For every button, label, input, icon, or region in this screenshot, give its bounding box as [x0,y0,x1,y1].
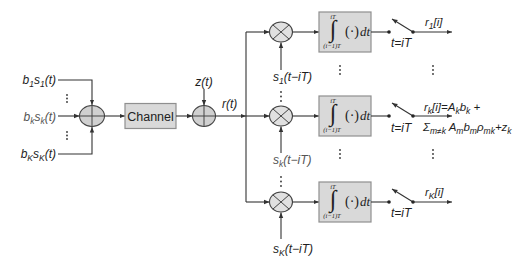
output-label-K: rK[i] [425,186,444,201]
ellipsis-dot [280,96,282,98]
vertical-ellipsis [432,149,434,159]
ellipsis-dot [432,149,434,151]
correlator-branch-K: sK(t−iT) iT ∫ (i−1)T (·) dt t=iT rK[i] [246,182,452,258]
ellipsis-dot [66,94,68,96]
signature-label-K: sK(t−iT) [273,242,313,258]
ellipsis-dot [280,176,282,178]
channel-label: Channel [127,110,174,124]
input-wire-1 [58,80,92,105]
sampling-switch-icon [371,103,415,118]
label-part: (t) [45,110,56,124]
output-label-k-line1: rk[i]=Akbk + [424,101,481,116]
signature-label-k: sk(t−iT) [273,153,312,169]
output-label-k-line2: Σm≠k Ambmρmk+zk [422,121,512,136]
integral-lower-limit: (i−1)T [323,126,341,134]
input-label-K: bKsK(t) [21,147,56,163]
integral-sign: ∫ [328,100,338,128]
label-part: [i] [434,186,445,198]
label-part: (t) [45,73,56,87]
label-part: (t−iT) [284,70,312,84]
vertical-ellipsis [280,91,282,102]
vertical-ellipsis [432,65,434,75]
label-part: (t−iT) [285,242,313,256]
vertical-ellipsis [66,94,68,103]
ellipsis-dot [432,69,434,71]
ellipsis-dot [339,149,341,151]
integral-lower-limit: (i−1)T [323,212,341,220]
switch-lever [392,103,413,116]
differential: dt [360,108,371,123]
ellipsis-dot [280,185,282,187]
label-subscript: mk [484,126,496,136]
ellipsis-dot [339,157,341,159]
integral-lower-limit: (i−1)T [323,42,341,50]
output-label-1: r1[i] [425,16,443,31]
integral-sign: ∫ [328,186,338,214]
differential: dt [360,24,371,39]
ellipsis-dot [280,100,282,102]
input-label-k: bksk(t) [23,110,56,126]
signature-label-1: s1(t−iT) [273,70,312,86]
integrand: (·) [345,24,359,40]
switch-contact [387,30,391,34]
integral-sign: ∫ [328,16,338,44]
ellipsis-dot [66,138,68,140]
ellipsis-dot [66,98,68,100]
sampler-label: t=iT [391,206,413,220]
ellipsis-dot [280,91,282,93]
label-part: (t) [45,147,56,161]
ellipsis-dot [432,153,434,155]
sampler-label: t=iT [391,36,413,50]
label-subscript: m [470,126,477,136]
ellipsis-dot [66,131,68,133]
input-wire-K [58,127,92,154]
integrand: (·) [345,108,359,124]
sampling-switch-icon [371,19,415,34]
channel-block: Channel [125,104,176,129]
multiplier-icon [270,106,293,126]
integrator-block: iT ∫ (i−1)T (·) dt [319,96,371,136]
label-part: A [446,121,457,133]
multiplier-icon [270,22,293,42]
switch-lever [392,189,413,202]
switch-lever [392,19,413,32]
label-part: [i]=A [431,101,456,113]
label-subscript: m [456,126,463,136]
summing-junction-icon [80,106,105,127]
label-part: + [470,101,480,113]
noise-label: z(t) [194,75,212,89]
ellipsis-dot [432,157,434,159]
label-part: +z [495,121,508,133]
switch-contact [387,200,391,204]
ellipsis-dot [339,69,341,71]
sampler-label: t=iT [391,121,413,135]
label-part: (t−iT) [283,153,311,167]
label-subscript: m≠k [430,126,447,136]
differential: dt [360,194,371,209]
sampling-switch-icon [371,189,415,204]
correlator-branch-1: s1(t−iT) iT ∫ (i−1)T (·) dt t=iT r1[i] [246,12,452,86]
vertical-ellipsis [339,149,341,159]
label-subscript: k [507,126,512,136]
ellipsis-dot [432,65,434,67]
integrand: (·) [345,194,359,210]
ellipsis-dot [280,181,282,183]
ellipsis-dot [432,73,434,75]
ellipsis-dot [66,135,68,137]
integrator-block: iT ∫ (i−1)T (·) dt [319,12,371,52]
integrator-block: iT ∫ (i−1)T (·) dt [319,182,371,222]
vertical-ellipsis [66,131,68,140]
vertical-ellipsis [280,176,282,187]
input-label-1: b1s1(t) [23,73,56,89]
ellipsis-dot [66,101,68,103]
noise-adder-icon [193,106,216,127]
ellipsis-dot [339,153,341,155]
correlator-branch-k: sk(t−iT) iT ∫ (i−1)T (·) dt t=iT rk[i]=A… [246,96,512,169]
ellipsis-dot [339,65,341,67]
received-signal-label: r(t) [222,97,237,111]
multiplier-icon [270,192,293,212]
label-part: [i] [433,16,444,28]
switch-contact [387,114,391,118]
vertical-ellipsis [339,65,341,75]
cdma-matched-filter-diagram: b1s1(t) bksk(t) bKsK(t) Channel [0,0,528,267]
